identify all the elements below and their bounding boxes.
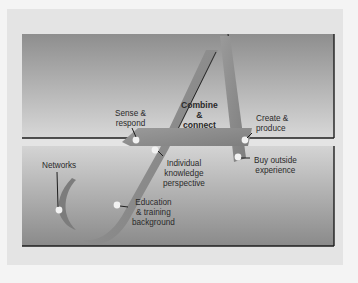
label-networks: Networks: [42, 161, 76, 171]
node-networks: [56, 207, 63, 214]
label-line: respond: [115, 119, 146, 129]
label-line: Networks: [42, 161, 76, 171]
label-line: &: [181, 110, 218, 120]
label-buy-outside: Buy outside experience: [254, 156, 297, 176]
label-line: perspective: [163, 179, 205, 189]
label-line: Create &: [256, 114, 288, 124]
letter-a-crossbar: [122, 128, 252, 146]
label-line: background: [132, 218, 175, 228]
label-sense-respond: Sense & respond: [115, 109, 146, 129]
label-education-training: Education & training background: [132, 198, 175, 228]
label-line: Buy outside: [254, 156, 297, 166]
label-create-produce: Create & produce: [256, 114, 288, 134]
label-combine-connect: Combine & connect: [181, 100, 218, 130]
label-line: & training: [132, 208, 175, 218]
label-line: produce: [256, 124, 288, 134]
label-line: knowledge: [163, 169, 205, 179]
node-individual: [152, 147, 159, 154]
node-buy: [235, 154, 242, 161]
node-sense: [133, 137, 140, 144]
label-individual-knowledge: Individual knowledge perspective: [163, 159, 205, 189]
label-line: connect: [181, 120, 218, 130]
label-line: Education: [132, 198, 175, 208]
label-line: Individual: [163, 159, 205, 169]
label-line: Sense &: [115, 109, 146, 119]
node-education: [114, 202, 121, 209]
diagram-canvas: [0, 0, 358, 283]
label-line: Combine: [181, 100, 218, 110]
label-line: experience: [254, 166, 297, 176]
